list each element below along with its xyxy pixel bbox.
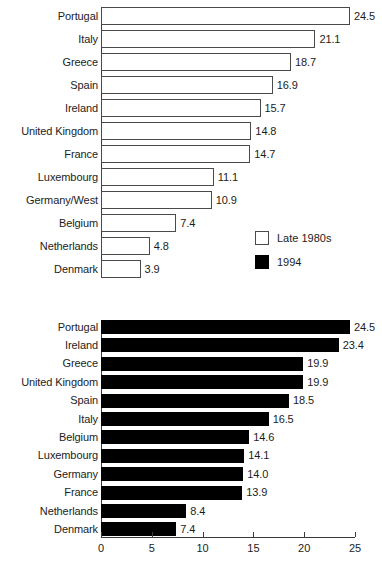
category-label: Portugal [58,11,98,22]
bar-1994[interactable] [101,522,176,536]
bar-row: France13.9 [0,486,382,500]
category-label: Portugal [58,322,98,333]
bar-value-label: 7.4 [180,524,195,535]
bar-1994[interactable] [101,338,339,352]
bar-1994[interactable] [101,412,269,426]
category-label: Denmark [54,524,98,535]
bar-value-label: 10.9 [216,195,237,206]
category-label: Italy [78,34,98,45]
category-label: Ireland [65,340,98,351]
bar-row: France14.7 [0,145,382,163]
bar-row: Greece18.7 [0,53,382,71]
bar-1994[interactable] [101,467,243,481]
bar-value-label: 19.9 [307,377,328,388]
category-label: Germany [53,469,98,480]
category-label: Greece [63,358,98,369]
x-axis-tick-label: 15 [247,543,259,554]
bar-late-1980s[interactable] [101,191,212,209]
bar-value-label: 24.5 [354,11,375,22]
category-label: Spain [70,395,98,406]
bar-late-1980s[interactable] [101,237,150,255]
bar-row: Spain18.5 [0,394,382,408]
category-label: Italy [78,414,98,425]
bar-row: Germany/West10.9 [0,191,382,209]
x-axis-tick [253,532,254,537]
category-label: Netherlands [40,241,98,252]
category-label: Denmark [54,264,98,275]
category-label: United Kingdom [21,377,98,388]
bar-1994[interactable] [101,430,249,444]
bar-1994[interactable] [101,486,242,500]
bar-late-1980s[interactable] [101,145,250,163]
bar-value-label: 14.6 [253,432,274,443]
bar-late-1980s[interactable] [101,168,214,186]
bar-value-label: 24.5 [354,322,375,333]
bar-value-label: 7.4 [180,218,195,229]
bar-value-label: 3.9 [145,264,160,275]
bar-1994[interactable] [101,320,350,334]
bar-row: Ireland15.7 [0,99,382,117]
bar-late-1980s[interactable] [101,122,251,140]
bar-row: Ireland23.4 [0,338,382,352]
legend-label-late-1980s: Late 1980s [277,233,331,244]
bar-value-label: 23.4 [343,340,364,351]
bar-1994[interactable] [101,449,244,463]
x-axis-line [101,537,355,538]
bar-row: Spain16.9 [0,76,382,94]
bar-value-label: 16.9 [277,80,298,91]
bar-row: Denmark7.4 [0,522,382,536]
bar-value-label: 11.1 [218,172,238,183]
bar-late-1980s[interactable] [101,53,291,71]
bar-late-1980s[interactable] [101,30,315,48]
bar-late-1980s[interactable] [101,214,176,232]
bar-late-1980s[interactable] [101,99,261,117]
bar-row: Portugal24.5 [0,320,382,334]
category-label: Germany/West [26,195,98,206]
category-label: France [64,487,98,498]
x-axis-tick-label: 25 [349,543,361,554]
bar-value-label: 18.5 [293,395,314,406]
x-axis-tick-label: 10 [196,543,208,554]
bar-value-label: 16.5 [273,414,294,425]
category-label: Greece [63,57,98,68]
category-label: Belgium [59,218,98,229]
bar-row: Belgium14.6 [0,430,382,444]
category-label: Netherlands [40,506,98,517]
chart-panel-late-1980s: Portugal24.5Italy21.1Greece18.7Spain16.9… [0,0,382,290]
bar-row: Portugal24.5 [0,7,382,25]
category-label: Luxembourg [38,450,98,461]
bar-value-label: 19.9 [307,358,328,369]
bar-value-label: 4.8 [154,241,169,252]
bar-row: Germany14.0 [0,467,382,481]
bar-1994[interactable] [101,375,303,389]
category-label: Belgium [59,432,98,443]
x-axis-tick [152,532,153,537]
bar-value-label: 14.8 [255,126,276,137]
bar-late-1980s[interactable] [101,260,141,278]
bar-late-1980s[interactable] [101,76,273,94]
bar-value-label: 14.1 [248,450,269,461]
bar-row: Italy21.1 [0,30,382,48]
x-axis-tick [304,532,305,537]
bar-row: Greece19.9 [0,357,382,371]
category-label: United Kingdom [21,126,98,137]
bar-row: Denmark3.9 [0,260,382,278]
bar-value-label: 8.4 [190,506,205,517]
chart-panel-1994: Portugal24.5Ireland23.4Greece19.9United … [0,300,382,567]
plot-area-late-1980s: Portugal24.5Italy21.1Greece18.7Spain16.9… [0,0,382,290]
bar-1994[interactable] [101,357,303,371]
x-axis-tick [355,532,356,537]
bar-value-label: 13.9 [246,487,267,498]
bar-row: Belgium7.4 [0,214,382,232]
legend-swatch-hollow-icon [255,231,269,245]
bar-value-label: 14.7 [254,149,275,160]
bar-1994[interactable] [101,504,186,518]
category-label: France [64,149,98,160]
x-axis-tick-label: 0 [98,543,104,554]
figure: Portugal24.5Italy21.1Greece18.7Spain16.9… [0,0,382,567]
bar-late-1980s[interactable] [101,7,350,25]
bar-row: Luxembourg11.1 [0,168,382,186]
category-label: Luxembourg [38,172,98,183]
bar-1994[interactable] [101,394,289,408]
category-label: Ireland [65,103,98,114]
